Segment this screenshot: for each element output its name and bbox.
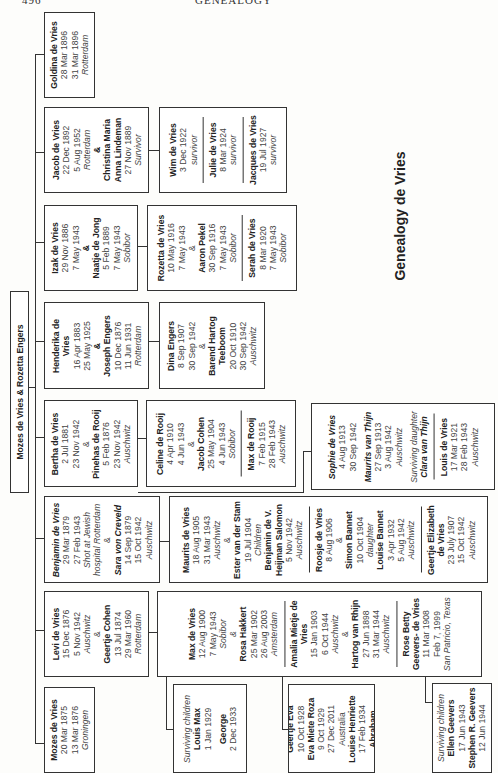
child-name: Louise Bannet bbox=[375, 510, 385, 569]
name: Max de Vries bbox=[187, 608, 197, 660]
birth-date: 8 Mar 1920 bbox=[257, 226, 267, 269]
children-box-jacob: Wim de Vries 3 Dec 1922 survivor Julie d… bbox=[159, 107, 287, 193]
divider bbox=[203, 117, 204, 183]
birth-date: 11 Mar 1908 bbox=[421, 610, 431, 658]
name: Geertje Elizabeth bbox=[425, 505, 435, 575]
divider bbox=[433, 414, 434, 480]
person-box-jacob: Jacob de Vries 22 Dec 1892 5 Aug 1952 Ro… bbox=[44, 107, 149, 193]
branch-benjamin bbox=[35, 538, 44, 539]
death-date: 31 Mar 1943 bbox=[201, 515, 211, 563]
birth-date: 18 Aug 1905 bbox=[191, 515, 201, 563]
name-2: Vries bbox=[299, 624, 309, 645]
link-amalia-v bbox=[282, 677, 283, 730]
name: Bertha de Vries bbox=[50, 412, 60, 475]
spouse-death: 4 Jun 1943 bbox=[217, 422, 227, 465]
birth-date: 29 Nov 1886 bbox=[60, 224, 70, 273]
grandchildren-box-max: Surviving children Louis Max 1 Jan 1929 … bbox=[173, 684, 247, 773]
person-box-henderika: Henderika de Vries 16 Apr 1883 25 May 19… bbox=[44, 302, 149, 389]
child-death: 5 Aug 1942 bbox=[395, 518, 405, 562]
branch-bertha bbox=[35, 437, 44, 438]
death-date: 7 May 1943 bbox=[208, 612, 218, 657]
birth-date: 19 Jul 1927 bbox=[258, 128, 268, 172]
branch-goldina bbox=[35, 54, 44, 55]
place: Sobibor bbox=[278, 233, 288, 263]
child-name: Geertje Eva bbox=[288, 705, 295, 752]
place: Auschwitz bbox=[406, 520, 416, 559]
spouse-birth: 25 May 1904 bbox=[206, 419, 216, 469]
birth-date: 16 Apr 1883 bbox=[71, 322, 81, 368]
name: Celine de Rooij bbox=[155, 412, 165, 474]
child-birth: 3 Apr 1932 bbox=[385, 519, 395, 561]
branch-izak bbox=[35, 242, 44, 243]
ampersand: & bbox=[81, 441, 91, 447]
link-sophie-h2 bbox=[303, 451, 311, 452]
birth-date: 10 May 1916 bbox=[166, 223, 176, 273]
link-maxfam-v bbox=[166, 677, 167, 730]
birth-date: 17 Feb 1934 bbox=[357, 704, 367, 752]
place: San Patricio, Texas bbox=[442, 597, 452, 671]
birth-date: 28 Mar 1896 bbox=[59, 31, 69, 79]
survivor-label: Surviving daughter bbox=[409, 411, 419, 483]
birth-date: 23 July 1907 bbox=[446, 515, 456, 564]
birth-date: 9 Oct 1929 bbox=[316, 707, 326, 749]
birth-date: 4 Apr 1910 bbox=[165, 423, 175, 465]
status: survivor bbox=[188, 135, 198, 165]
place: Auschwitz bbox=[81, 615, 91, 654]
spouse-death: 26 Aug 2003 bbox=[259, 610, 269, 658]
spouse-birth: 14 Sep 1879 bbox=[123, 515, 133, 564]
divider bbox=[241, 411, 242, 477]
name-2: Geevers- de Vries bbox=[411, 598, 421, 670]
spouse-name-2: Teeboom bbox=[217, 327, 227, 365]
death-date: 23 Nov 1942 bbox=[70, 419, 80, 468]
spouse-death: 7 May 1943 bbox=[218, 226, 228, 271]
spouse-name: Jacob Cohen bbox=[196, 417, 206, 471]
place: Rotterdam bbox=[133, 614, 143, 654]
spouse-birth: 25 Mar 1902 bbox=[249, 610, 259, 658]
birth-date: 15 Dec 1876 bbox=[60, 610, 70, 659]
status: survivor bbox=[228, 135, 238, 165]
death-date: 30 Sep 1942 bbox=[186, 321, 196, 370]
birth-date: 17 Mar 1921 bbox=[449, 422, 459, 470]
place: Auschwitz bbox=[469, 427, 479, 466]
spouse-death: 29 Mar 1960 bbox=[122, 610, 132, 658]
ampersand: & bbox=[91, 631, 101, 637]
birth-date: 29 Mar 1879 bbox=[61, 515, 71, 563]
child-name: Benjamin de V. bbox=[263, 509, 273, 570]
link-rose-v bbox=[425, 677, 426, 703]
place: Sobibor bbox=[228, 233, 238, 263]
death-date: 4 Jun 1943 bbox=[175, 422, 185, 465]
death-date: 28 Feb 1943 bbox=[267, 419, 277, 467]
ampersand: & bbox=[81, 245, 91, 251]
place: Auschwitz bbox=[248, 326, 258, 365]
place: Groningen bbox=[80, 710, 90, 750]
spouse-name: Sara von Creveld bbox=[112, 504, 122, 574]
divider bbox=[242, 117, 243, 183]
branch-jacob bbox=[35, 152, 44, 153]
spouse-name: Christina Maria bbox=[102, 119, 112, 181]
name: Maurits de Vries bbox=[180, 507, 190, 573]
child-name: Abraham bbox=[368, 710, 375, 747]
spouse-name: Rosa Hakkert bbox=[238, 607, 248, 662]
birth-date: 2 Jul 1881 bbox=[60, 424, 70, 464]
children-box-sophie: Sophie de Vries 4 Aug 1913 30 Sep 1942 M… bbox=[311, 403, 495, 490]
birth-date: 4 Aug 1913 bbox=[337, 425, 347, 469]
spouse-name: Geertje Cohen bbox=[102, 605, 112, 664]
spouse-name: Simon Bannet bbox=[344, 511, 354, 569]
death-date: 5 Nov 1942 bbox=[71, 612, 81, 656]
spouse-death: 7 May 1943 bbox=[112, 226, 122, 271]
name-2: Vries bbox=[60, 335, 70, 356]
place: Auschwitz bbox=[393, 427, 403, 466]
survivor-name: Clara van Thijn bbox=[419, 416, 429, 478]
person-box-izak: Izak de Vries 29 Nov 1886 7 May 1943 & N… bbox=[44, 205, 138, 291]
ampersand: & bbox=[197, 343, 207, 349]
birth-date: 8 Aug 1906 bbox=[323, 518, 333, 562]
person-box-benjamin: Benjamin de Vries 29 Mar 1879 27 Feb 194… bbox=[44, 496, 160, 583]
ampersand: & bbox=[91, 342, 101, 348]
place: Auschwitz bbox=[122, 424, 132, 463]
name: Rose Betty bbox=[401, 612, 411, 657]
children-label: Children bbox=[253, 524, 263, 556]
spouse-name: Ester van der Stam bbox=[232, 501, 242, 579]
child-name: Eva Miete Roza bbox=[306, 697, 316, 760]
death-date: 15 Oct 1942 bbox=[456, 516, 466, 563]
person-box-goldina: Goldina de Vries 28 Mar 1896 31 Mar 1896… bbox=[44, 12, 95, 98]
